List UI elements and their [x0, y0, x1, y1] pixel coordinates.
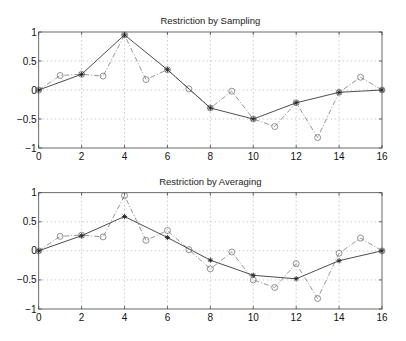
- star-marker-icon: [79, 72, 84, 77]
- star-marker-icon: [36, 87, 41, 92]
- chart-title: Restriction by Sampling: [160, 15, 260, 26]
- x-tick-label: 10: [248, 151, 260, 162]
- star-marker-icon: [36, 248, 41, 253]
- y-tick-label: −1: [25, 304, 37, 315]
- y-tick-label: 1: [31, 187, 37, 198]
- star-marker-icon: [336, 90, 341, 95]
- x-tick-label: 14: [334, 312, 346, 323]
- x-tick-label: 2: [79, 151, 85, 162]
- series-coarse-grid: [36, 214, 385, 281]
- x-tick-label: 6: [165, 312, 171, 323]
- figure: Restriction by Sampling0246810121416−1−0…: [0, 0, 406, 341]
- chart-title: Restriction by Averaging: [159, 176, 261, 187]
- x-tick-label: 14: [334, 151, 346, 162]
- x-tick-label: 16: [376, 151, 388, 162]
- x-tick-label: 16: [376, 312, 388, 323]
- circle-marker-icon: [100, 234, 106, 240]
- x-tick-label: 8: [208, 312, 214, 323]
- star-marker-icon: [294, 276, 299, 281]
- y-tick-label: 0.5: [23, 216, 37, 227]
- x-tick-label: 4: [122, 151, 128, 162]
- tick-labels: 0246810121416−1−0.500.51: [17, 187, 388, 323]
- plot-restriction-by-sampling: Restriction by Sampling0246810121416−1−0…: [17, 15, 388, 162]
- x-tick-label: 4: [122, 312, 128, 323]
- y-tick-label: 1: [31, 27, 37, 38]
- x-tick-label: 12: [291, 151, 303, 162]
- x-tick-label: 0: [36, 151, 42, 162]
- grid-lines: [39, 32, 382, 148]
- star-marker-icon: [379, 248, 384, 253]
- x-tick-label: 8: [208, 151, 214, 162]
- circle-marker-icon: [100, 73, 106, 79]
- star-marker-icon: [251, 273, 256, 278]
- y-tick-label: −0.5: [17, 274, 37, 285]
- x-tick-label: 0: [36, 312, 42, 323]
- circle-marker-icon: [143, 237, 149, 243]
- plot-restriction-by-averaging: Restriction by Averaging0246810121416−1−…: [17, 176, 388, 323]
- y-tick-label: −0.5: [17, 114, 37, 125]
- star-marker-icon: [208, 258, 213, 263]
- star-marker-icon: [122, 32, 127, 37]
- star-marker-icon: [251, 116, 256, 121]
- y-tick-label: 0.5: [23, 56, 37, 67]
- star-marker-icon: [122, 214, 127, 219]
- star-marker-icon: [165, 235, 170, 240]
- grid-lines: [39, 193, 382, 309]
- x-tick-label: 12: [291, 312, 303, 323]
- y-tick-label: −1: [25, 143, 37, 154]
- star-marker-icon: [379, 87, 384, 92]
- x-tick-label: 6: [165, 151, 171, 162]
- star-marker-icon: [336, 258, 341, 263]
- star-marker-icon: [294, 100, 299, 105]
- x-tick-label: 2: [79, 312, 85, 323]
- circle-marker-icon: [164, 227, 170, 233]
- x-tick-label: 10: [248, 312, 260, 323]
